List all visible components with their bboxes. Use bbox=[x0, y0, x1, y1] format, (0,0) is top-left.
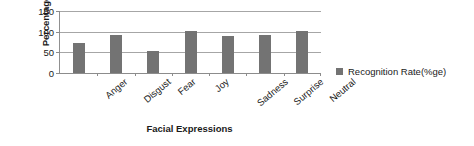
gridline-0 bbox=[60, 73, 321, 74]
y-tick-label-0: 0 bbox=[49, 68, 54, 79]
plot-area: 150 100 50 0 bbox=[59, 11, 321, 73]
x-category-label-fear: Fear bbox=[176, 76, 198, 97]
x-category-label-sadness: Sadness bbox=[255, 76, 290, 108]
bar-sadness[interactable] bbox=[222, 36, 234, 73]
bar-slot-fear bbox=[135, 11, 172, 73]
bar-series-recognition-rate bbox=[60, 11, 321, 73]
x-category-label-surprise: Surprise bbox=[291, 76, 325, 107]
legend[interactable]: Recognition Rate(%ge) bbox=[336, 66, 446, 77]
bar-neutral[interactable] bbox=[296, 31, 308, 73]
x-tick-mark-7 bbox=[320, 73, 321, 76]
bar-disgust[interactable] bbox=[110, 35, 122, 73]
bar-slot-neutral bbox=[284, 11, 321, 73]
x-category-label-disgust: Disgust bbox=[141, 76, 172, 105]
bar-slot-joy bbox=[172, 11, 209, 73]
legend-label-recognition-rate: Recognition Rate(%ge) bbox=[348, 66, 446, 77]
bar-chart-figure: Percentage 150 100 50 0 bbox=[0, 0, 474, 146]
bar-slot-sadness bbox=[209, 11, 246, 73]
x-axis-category-labels: Anger Disgust Fear Joy Sadness Surprise … bbox=[59, 76, 320, 114]
bar-slot-surprise bbox=[246, 11, 283, 73]
bar-slot-disgust bbox=[97, 11, 134, 73]
legend-swatch-icon bbox=[336, 68, 343, 75]
bar-surprise[interactable] bbox=[259, 35, 271, 73]
y-tick-label-50: 50 bbox=[43, 47, 54, 58]
y-tick-mark-0 bbox=[56, 73, 60, 74]
bar-anger[interactable] bbox=[73, 43, 85, 73]
y-tick-label-150: 150 bbox=[38, 6, 54, 17]
bar-joy[interactable] bbox=[185, 31, 197, 73]
bar-slot-anger bbox=[60, 11, 97, 73]
x-category-label-joy: Joy bbox=[212, 76, 230, 94]
x-category-label-neutral: Neutral bbox=[327, 76, 358, 104]
x-axis-title: Facial Expressions bbox=[59, 123, 320, 134]
y-tick-label-100: 100 bbox=[38, 26, 54, 37]
x-category-label-anger: Anger bbox=[103, 76, 129, 101]
bar-fear[interactable] bbox=[147, 51, 159, 73]
